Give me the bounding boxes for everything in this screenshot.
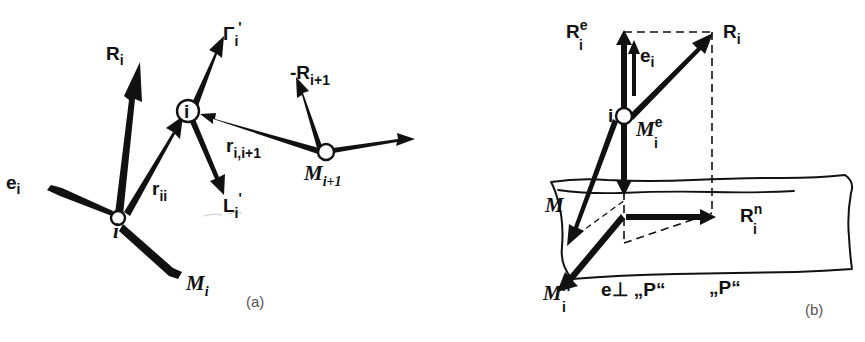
label-M-i-n-b: Mni xyxy=(542,278,570,315)
label-M-b: M xyxy=(544,193,565,217)
label-M-i-e-b: Mei xyxy=(635,114,663,151)
node-i-b xyxy=(616,108,632,124)
label-M-i-a: Mi xyxy=(185,271,209,299)
label-R-i-e-b: Rei xyxy=(566,17,588,53)
label-L-i-prime-a: Li' xyxy=(223,190,242,221)
label-e-perp-P-b: e⊥ „P“ xyxy=(601,279,666,300)
node-label-i-middle-a: i xyxy=(184,101,189,122)
diagram-canvas: ei Ri Mi rii Γi' Li' ri,i+1 -Ri+1 Mi+1 i… xyxy=(0,0,865,342)
caption-a: (a) xyxy=(246,293,264,310)
vector-L-i-prime-a xyxy=(190,119,225,195)
panel-a: ei Ri Mi rii Γi' Li' ri,i+1 -Ri+1 Mi+1 i… xyxy=(6,19,415,310)
node-label-i-left-a: i xyxy=(113,219,119,243)
label-e-i-b: ei xyxy=(640,45,654,70)
node-m-i-plus-1-a xyxy=(318,144,334,160)
vector-r-ii-a xyxy=(124,116,183,216)
vector-M-i-a xyxy=(119,224,182,279)
label-R-i-n-b: Rni xyxy=(740,201,762,237)
label-M-i-plus-1-a: Mi+1 xyxy=(303,161,342,189)
label-minus-R-i-plus-1-a: -Ri+1 xyxy=(290,62,330,88)
vector-e-i-b xyxy=(628,40,640,96)
node-label-i-b: i xyxy=(608,105,613,126)
label-R-i-b: Ri xyxy=(723,21,741,47)
label-gamma-i-prime-a: Γi' xyxy=(223,19,242,49)
plane-P-outline xyxy=(551,175,852,279)
vector-e-i-a xyxy=(47,185,113,216)
figure-root: ei Ri Mi rii Γi' Li' ri,i+1 -Ri+1 Mi+1 i… xyxy=(0,0,865,342)
vector-right-outgoing-a xyxy=(333,133,415,153)
label-e-i-a: ei xyxy=(6,172,20,197)
vector-gamma-i-prime-a xyxy=(192,36,224,106)
label-r-i-i-plus-1-a: ri,i+1 xyxy=(226,135,261,161)
label-R-i-a: Ri xyxy=(106,43,124,68)
plane-top-fold-line xyxy=(558,190,794,193)
vector-M-i-e-b xyxy=(616,118,632,196)
label-r-ii-a: rii xyxy=(152,178,167,204)
vector-R-i-e-b xyxy=(616,30,632,118)
vector-R-i-n-b xyxy=(626,209,716,225)
label-P-plane-b: „P“ xyxy=(709,277,741,298)
caption-b: (b) xyxy=(805,301,823,318)
panel-b: Rei Ri ei Mei M Rni Mni e⊥ „P“ „P“ i (b) xyxy=(542,17,852,318)
